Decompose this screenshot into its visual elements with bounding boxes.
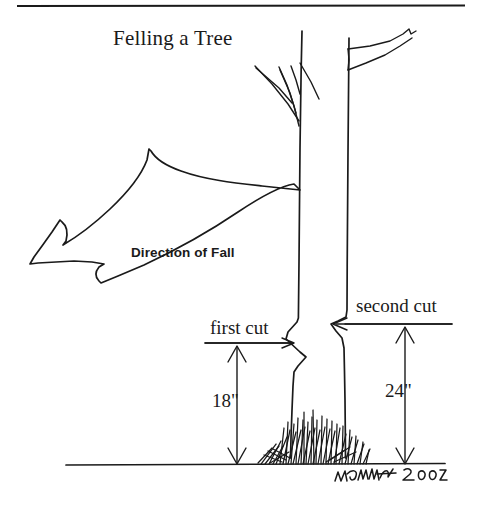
trunk-left-outline — [286, 31, 306, 458]
first-cut-label: first cut — [210, 318, 269, 337]
grass-tuft — [258, 410, 370, 464]
second-cut-height-label: 24" — [385, 381, 412, 400]
page-title: Felling a Tree — [113, 28, 232, 49]
artist-signature — [335, 469, 447, 481]
second-cut-label: second cut — [356, 296, 437, 315]
branch-left-short — [291, 66, 300, 94]
top-divider-rule — [17, 6, 465, 7]
branch-left-upper — [255, 66, 299, 121]
felling-a-tree-diagram: Felling a Tree Direction of Fall first c… — [0, 0, 482, 511]
branch-right-stub — [300, 63, 319, 99]
direction-of-fall-label: Direction of Fall — [131, 246, 235, 260]
diagram-canvas — [0, 0, 482, 511]
direction-of-fall-arrow — [30, 149, 300, 283]
first-cut-height-label: 18" — [212, 391, 239, 410]
trunk-right-outline — [331, 38, 349, 458]
branch-right-limb-top — [348, 29, 416, 49]
ground-line — [66, 464, 445, 466]
